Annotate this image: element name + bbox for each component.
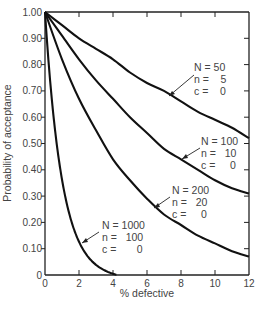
annotation-n1000: N = 1000 n = 100 c = 0 (82, 219, 145, 255)
x-tick-label: 4 (110, 278, 116, 289)
annotation-n100-n: n = 10 (201, 147, 236, 159)
annotation-n50-n: n = 5 (194, 73, 227, 85)
annotation-n50-c: c = 0 (194, 85, 226, 97)
x-tick-label: 12 (243, 278, 255, 289)
y-tick-label: 0.60 (23, 112, 43, 123)
y-tick-label: 1.00 (23, 7, 43, 18)
x-axis-title: % defective (120, 287, 174, 299)
x-tick-label: 8 (178, 278, 184, 289)
annotation-n200-c: c = 0 (172, 208, 207, 220)
annotation-n1000-c: c = 0 (102, 243, 143, 255)
x-tick-label: 0 (42, 278, 48, 289)
annotation-n200-n: n = 20 (172, 196, 207, 208)
annotation-n100-N: N = 100 (201, 135, 238, 147)
annotation-n200: N = 200 n = 20 c = 0 (154, 184, 209, 220)
annotation-n1000-n: n = 100 (102, 231, 143, 243)
annotation-n50-N: N = 50 (194, 61, 225, 73)
annotation-n1000-N: N = 1000 (102, 219, 145, 231)
x-tick-label: 10 (209, 278, 221, 289)
y-tick-label: 0.80 (23, 59, 43, 70)
x-tick-label: 2 (76, 278, 82, 289)
y-axis-title: Probability of acceptance (1, 84, 13, 201)
y-tick-label: 0.50 (23, 138, 43, 149)
y-tick-label: 0.70 (23, 85, 43, 96)
y-tick-label: 0.30 (23, 191, 43, 202)
y-tick-label: 0.90 (23, 33, 43, 44)
y-tick-label: 0.40 (23, 164, 43, 175)
annotation-n50: N = 50 n = 5 c = 0 (169, 61, 227, 97)
annotation-n200-N: N = 200 (172, 184, 209, 196)
oc-curve-chart: 00.100.200.300.400.500.600.700.800.901.0… (0, 0, 264, 310)
y-tick-label: 0.20 (23, 217, 43, 228)
annotation-n100-c: c = 0 (201, 159, 236, 171)
y-tick-label: 0.10 (23, 243, 43, 254)
